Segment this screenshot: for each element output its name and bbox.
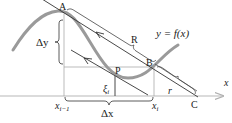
tangent-line-P [71,50,148,95]
curve-label: y = f(x) [155,27,189,40]
brace-label-delta-x: Δx [101,107,114,119]
point-label-A: A [59,1,67,12]
brace-label-R: R [131,34,138,45]
brace-delta-x [65,97,153,105]
segment-BC-outline [155,64,197,91]
secant-diagram: A B C P R r Δy Δx y = f(x) x xi−1 xi ξi [0,0,232,123]
brace-r [157,67,195,94]
xi-label: ξi [103,83,109,96]
brace-label-delta-y: Δy [36,36,49,48]
tick-label-x-prev: xi−1 [54,100,70,113]
brace-label-r: r [168,85,172,96]
point-label-B: B [146,57,153,68]
tick-label-x-i: xi [151,100,158,113]
arrow-icon [84,58,92,64]
point-label-P: P [115,65,121,76]
brace-delta-y [55,20,63,64]
point-label-C: C [191,99,198,110]
brace-R [67,9,156,62]
axis-label-x: x [223,77,229,88]
